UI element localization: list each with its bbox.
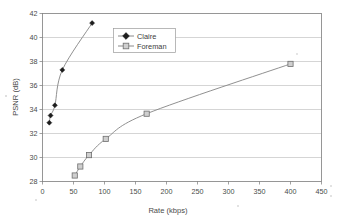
open-square-icon bbox=[123, 43, 129, 49]
x-tick-label: 300 bbox=[223, 187, 235, 196]
legend-label-claire: Claire bbox=[137, 32, 156, 41]
x-tick-label: 400 bbox=[285, 187, 297, 196]
y-tick-label: 36 bbox=[30, 81, 38, 90]
y-tick-label: 38 bbox=[30, 57, 38, 66]
data-point-square bbox=[72, 173, 77, 178]
data-point-square bbox=[103, 136, 108, 141]
data-point-square bbox=[86, 153, 91, 158]
x-tick-label: 100 bbox=[99, 187, 111, 196]
legend: Claire Foreman bbox=[114, 29, 176, 53]
y-tick-label: 32 bbox=[30, 129, 38, 138]
x-tick-label: 200 bbox=[161, 187, 173, 196]
legend-label-foreman: Foreman bbox=[137, 42, 167, 51]
x-tick-label: 50 bbox=[70, 187, 78, 196]
y-tick-label: 28 bbox=[30, 177, 38, 186]
data-point-square bbox=[288, 61, 293, 66]
x-tick-label: 450 bbox=[316, 187, 328, 196]
x-tick-label: 350 bbox=[254, 187, 266, 196]
y-tick-label: 42 bbox=[30, 9, 38, 18]
x-axis-title: Rate (kbps) bbox=[148, 206, 188, 215]
x-tick-label: 0 bbox=[41, 187, 45, 196]
x-tick-label: 150 bbox=[130, 187, 142, 196]
x-tick-label: 250 bbox=[192, 187, 204, 196]
y-axis-title: PSNR (dB) bbox=[11, 78, 20, 116]
y-tick-label: 34 bbox=[30, 105, 38, 114]
y-tick-label: 40 bbox=[30, 33, 38, 42]
y-tick-label: 30 bbox=[30, 153, 38, 162]
psnr-rate-line-chart: 2830323436384042 05010015020025030035040… bbox=[0, 0, 337, 220]
data-point-square bbox=[78, 164, 83, 169]
data-point-square bbox=[144, 111, 149, 116]
chart-container: 2830323436384042 05010015020025030035040… bbox=[0, 0, 337, 220]
